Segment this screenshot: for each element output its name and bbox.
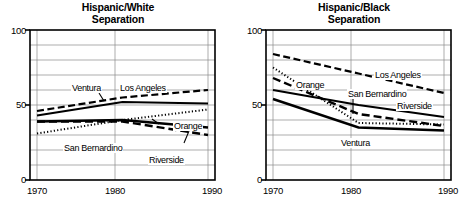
series-label-riverside-left: Riverside [148, 155, 185, 165]
series-line-los-angeles-left [37, 90, 208, 111]
plot-area-right [236, 0, 472, 216]
series-label-orange-right: Orange [295, 80, 325, 90]
series-label-ventura-right: Ventura [340, 138, 371, 148]
series-label-riverside-right: Riverside [396, 101, 433, 111]
figure-root: Hispanic/White Separation 100 50 0 1970 … [0, 0, 472, 216]
plot-area-left [0, 0, 236, 216]
leader-lines-left [99, 93, 189, 143]
series-label-ventura-left: Ventura [71, 83, 102, 93]
series-label-los-angeles-right: Los Angeles [374, 70, 422, 80]
series-label-orange-left: Orange [173, 121, 203, 131]
chart-panel-hispanic-white: Hispanic/White Separation 100 50 0 1970 … [0, 0, 236, 216]
series-label-san-bernardino-right: San Bernardino [347, 89, 407, 99]
series-label-los-angeles-left: Los Angeles [119, 83, 167, 93]
chart-panel-hispanic-black: Hispanic/Black Separation 100 50 0 1970 … [236, 0, 472, 216]
series-label-san-bernardino-left: San Bernardino [63, 143, 123, 153]
